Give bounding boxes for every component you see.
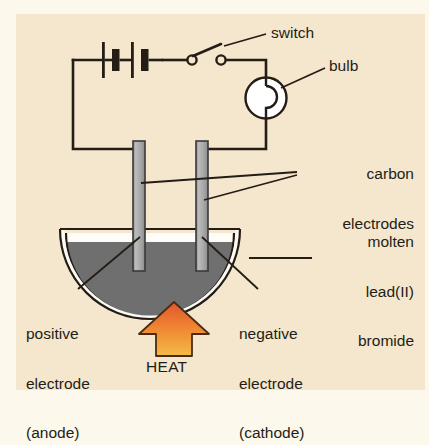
switch-symbol[interactable] — [187, 44, 225, 65]
label-positive-line3: (anode) — [26, 425, 90, 442]
label-molten-line1: molten — [358, 234, 414, 251]
label-bulb: bulb — [329, 58, 358, 75]
battery-symbol — [102, 42, 163, 78]
label-negative-electrode: negative electrode (cathode) — [239, 293, 304, 445]
label-negative-line1: negative — [239, 326, 304, 343]
bulb-leader-line — [281, 68, 325, 88]
circuit-wiring — [73, 60, 266, 149]
label-carbon-electrodes-line1: carbon — [342, 166, 414, 183]
electrode-right-cathode — [196, 141, 208, 271]
label-negative-line2: electrode — [239, 376, 304, 393]
bulb-symbol — [246, 78, 287, 119]
label-positive-line1: positive — [26, 326, 90, 343]
label-molten-line3: bromide — [358, 333, 414, 350]
electrode-left-anode — [133, 141, 145, 271]
label-molten-lead-bromide: molten lead(II) bromide — [358, 201, 414, 383]
switch-leader-line — [224, 34, 266, 46]
carbon-electrodes-leader-line-right — [204, 175, 297, 200]
label-negative-line3: (cathode) — [239, 425, 304, 442]
label-heat: HEAT — [146, 359, 187, 376]
label-molten-line2: lead(II) — [358, 284, 414, 301]
label-positive-electrode: positive electrode (anode) — [26, 293, 90, 445]
label-positive-line2: electrode — [26, 376, 90, 393]
label-switch: switch — [271, 25, 314, 42]
